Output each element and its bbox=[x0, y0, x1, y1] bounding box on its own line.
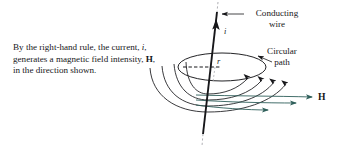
label-conducting-wire: Conducting wire bbox=[246, 8, 308, 29]
conducting-wire bbox=[203, 12, 217, 134]
magnetic-field-figure: By the right-hand rule, the current, i, … bbox=[0, 0, 341, 151]
label-current-symbol: i bbox=[224, 27, 226, 38]
field-arrow-1 bbox=[196, 95, 312, 97]
label-field-intensity-symbol: H bbox=[318, 92, 325, 103]
wire-bottom-dashed bbox=[202, 134, 203, 146]
wire-behind-ellipse-dashed bbox=[213, 67, 215, 82]
label-radius-symbol: r bbox=[217, 57, 220, 68]
wire-top-dashed bbox=[217, 2, 218, 12]
label-circular-path: Circular path bbox=[257, 46, 307, 67]
field-line-2 bbox=[174, 64, 262, 100]
